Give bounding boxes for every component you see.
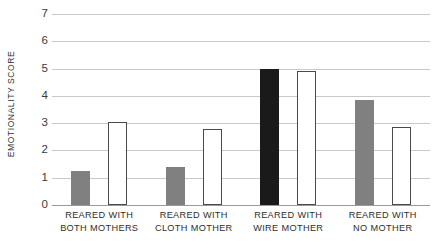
gridline-6 [52, 41, 430, 42]
category-label-line: BOTH MOTHERS [52, 222, 147, 235]
category-label-line: REARED WITH [336, 209, 431, 222]
y-axis-title-label: EMOTIONALITY SCORE [6, 51, 16, 158]
y-tick-label-4: 4 [32, 90, 48, 102]
gridline-4 [52, 96, 430, 97]
category-label-3: REARED WITHWIRE MOTHER [241, 209, 336, 234]
category-label-line: NO MOTHER [336, 222, 431, 235]
bar-filled-group-4 [355, 100, 374, 205]
bar-open-group-3 [297, 71, 316, 205]
y-axis-tick-labels: 01234567 [30, 14, 48, 205]
category-label-line: REARED WITH [52, 209, 147, 222]
gridline-0 [52, 205, 430, 206]
y-tick-label-2: 2 [32, 145, 48, 157]
emotionality-score-bar-chart: EMOTIONALITY SCORE 01234567 REARED WITHB… [0, 0, 438, 249]
y-axis-title: EMOTIONALITY SCORE [0, 0, 22, 208]
category-label-2: REARED WITHCLOTH MOTHER [147, 209, 242, 234]
plot-area [52, 14, 430, 205]
y-tick-label-0: 0 [32, 199, 48, 211]
category-label-1: REARED WITHBOTH MOTHERS [52, 209, 147, 234]
x-axis-category-labels: REARED WITHBOTH MOTHERSREARED WITHCLOTH … [52, 209, 430, 249]
category-label-line: CLOTH MOTHER [147, 222, 242, 235]
y-tick-label-7: 7 [32, 8, 48, 20]
bar-filled-group-2 [166, 167, 185, 205]
category-label-line: WIRE MOTHER [241, 222, 336, 235]
gridline-7 [52, 14, 430, 15]
category-label-line: REARED WITH [241, 209, 336, 222]
y-tick-label-1: 1 [32, 172, 48, 184]
bar-open-group-4 [392, 127, 411, 205]
gridline-5 [52, 69, 430, 70]
bar-open-group-1 [108, 122, 127, 205]
bar-filled-group-1 [71, 171, 90, 205]
y-tick-label-6: 6 [32, 36, 48, 48]
category-label-line: REARED WITH [147, 209, 242, 222]
y-tick-label-5: 5 [32, 63, 48, 75]
bar-filled-group-3 [260, 69, 279, 205]
y-tick-label-3: 3 [32, 117, 48, 129]
bar-open-group-2 [203, 129, 222, 205]
category-label-4: REARED WITHNO MOTHER [336, 209, 431, 234]
